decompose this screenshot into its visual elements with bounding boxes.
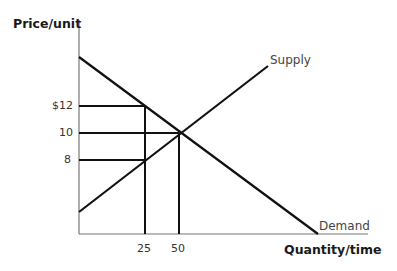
demand-label: Demand	[319, 219, 370, 233]
supply-demand-chart: Price/unit Quantity/time $12 10 8 25 50 …	[0, 0, 397, 271]
y-tick-10: 10	[59, 126, 73, 139]
y-axis-title: Price/unit	[13, 16, 81, 31]
x-tick-25: 25	[137, 242, 151, 255]
y-tick-8: 8	[64, 153, 71, 166]
x-axis-title: Quantity/time	[284, 242, 382, 257]
supply-label: Supply	[270, 53, 311, 67]
demand-curve	[79, 57, 318, 234]
y-tick-12: $12	[52, 99, 73, 112]
x-tick-50: 50	[171, 242, 185, 255]
supply-curve	[79, 66, 268, 212]
